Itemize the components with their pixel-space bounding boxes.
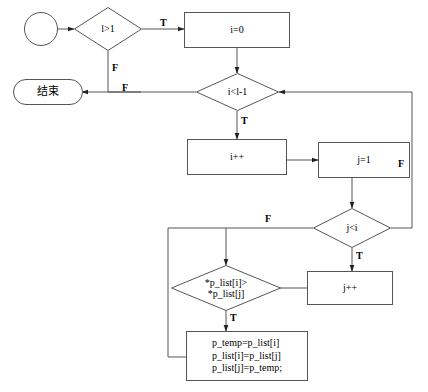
- process-increment-i-label: i++: [230, 151, 244, 162]
- edge-label-outer-false: F: [398, 158, 404, 169]
- decision-j-lt-i-label: j<i: [346, 222, 357, 234]
- decision-compare-elements: *p_list[i]> *p_list[j]: [171, 265, 281, 311]
- process-init-i: i=0: [184, 12, 290, 48]
- edge-label-to-end-false: F: [122, 82, 128, 93]
- decision-l-greater-than-1-label: l>1: [101, 23, 114, 35]
- process-init-i-label: i=0: [230, 24, 243, 35]
- edge-label-j-lt-i-false: F: [265, 213, 271, 224]
- edge-label-j-lt-i-true: T: [356, 250, 363, 261]
- process-swap-block: p_temp=p_list[i] p_list[i]=p_list[j] p_l…: [186, 331, 308, 381]
- decision-l-greater-than-1: l>1: [74, 7, 142, 51]
- process-increment-j: j++: [307, 271, 393, 305]
- edge-label-i-lt-l-true: T: [241, 115, 248, 126]
- flowchart-canvas: 结束 l>1 i=0 i<l-1 i++ j=1 j<i j++: [0, 0, 428, 392]
- process-increment-j-label: j++: [343, 282, 357, 293]
- decision-compare-elements-label: *p_list[i]> *p_list[j]: [205, 277, 247, 300]
- end-node-label: 结束: [37, 86, 59, 98]
- process-increment-i: i++: [187, 139, 287, 175]
- end-node: 结束: [13, 79, 83, 105]
- process-swap-block-label: p_temp=p_list[i] p_list[i]=p_list[j] p_l…: [212, 337, 282, 375]
- start-node: [24, 12, 58, 46]
- edge-label-l-gt-1-true: T: [160, 17, 167, 28]
- process-init-j-label: j=1: [357, 154, 370, 165]
- process-init-j: j=1: [318, 142, 410, 178]
- edge-label-l-gt-1-false: F: [112, 62, 118, 73]
- decision-i-lt-l-minus-1-label: i<l-1: [228, 86, 248, 98]
- decision-j-lt-i: j<i: [313, 208, 391, 248]
- edge-label-compare-true: T: [230, 312, 237, 323]
- decision-i-lt-l-minus-1: i<l-1: [196, 73, 279, 111]
